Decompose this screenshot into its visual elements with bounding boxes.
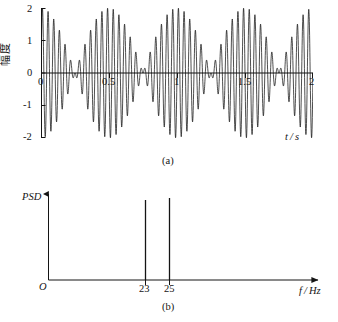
panel-b-plot-area: [0, 176, 338, 296]
panel-b-psd: PSD O 23 25 f / Hz (b): [0, 176, 338, 322]
panel-b-caption: (b): [162, 302, 174, 313]
panel-a-x-axis-label: t / s: [285, 132, 299, 143]
panel-a-xtick-label-2: 2: [309, 77, 314, 88]
panel-a-plot-area: [41, 8, 313, 138]
panel-b-xtick-label-23: 23: [139, 284, 150, 295]
panel-a-xtick-label-1: 1: [174, 77, 179, 88]
panel-a-xtick-label-0: 0: [38, 77, 43, 88]
panel-a-xtick-label-1p5: 1.5: [238, 77, 251, 88]
panel-a-caption: (a): [162, 156, 174, 167]
panel-a-y-axis-label: 幅度: [0, 42, 11, 66]
panel-b-y-axis-label: PSD: [22, 192, 41, 203]
panel-a-time-domain: 幅度 2 1 0 -1 -2 0 0: [0, 0, 338, 170]
panel-a-xtick-label-0p5: 0.5: [102, 77, 115, 88]
panel-b-x-axis-label: f / Hz: [299, 286, 321, 297]
panel-a-ytick-label-neg2: -2: [23, 132, 32, 143]
panel-a-ytick-label-0: 0: [27, 68, 32, 79]
panel-a-ytick-label-2: 2: [27, 4, 32, 15]
panel-a-ytick-label-neg1: -1: [23, 100, 32, 111]
figure-root: 幅度 2 1 0 -1 -2 0 0: [0, 0, 338, 322]
panel-b-xtick-label-25: 25: [164, 284, 175, 295]
panel-a-ytick-label-1: 1: [27, 36, 32, 47]
panel-b-origin-label: O: [39, 282, 47, 293]
